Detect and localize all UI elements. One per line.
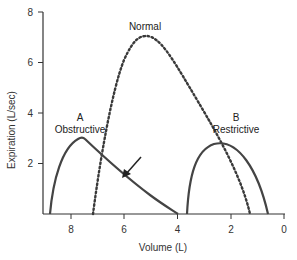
y-tick-label: 6	[27, 57, 33, 68]
y-ticks	[38, 12, 43, 164]
obstructive-curve	[50, 138, 178, 215]
y-tick-label: 4	[27, 108, 33, 119]
normal-label: Normal	[129, 21, 161, 32]
y-tick-label: 8	[27, 7, 33, 18]
restrictive-letter: B	[233, 112, 240, 123]
x-tick-label: 8	[68, 224, 74, 235]
obstructive-label: Obstructive	[55, 124, 106, 135]
obstructive-letter: A	[77, 112, 84, 123]
x-tick-label: 6	[121, 224, 127, 235]
restrictive-label: Restrictive	[213, 124, 260, 135]
x-tick-label: 0	[281, 224, 287, 235]
flow-volume-chart: 8 6 4 2 8 6 4 2 0 Volume (L) Expiration …	[0, 0, 297, 260]
y-tick-label: 2	[27, 158, 33, 169]
x-axis-title: Volume (L)	[139, 242, 187, 253]
x-tick-label: 4	[175, 224, 181, 235]
x-tick-label: 2	[228, 224, 234, 235]
arrow-icon	[122, 157, 141, 178]
y-axis-title: Expiration (L/sec)	[6, 91, 17, 169]
